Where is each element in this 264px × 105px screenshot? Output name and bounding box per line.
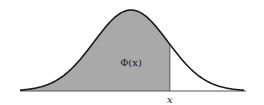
x-marker-label: x <box>167 94 173 105</box>
area-label: Φ(x) <box>120 57 142 68</box>
shaded-area <box>20 10 170 91</box>
normal-distribution-chart: Φ(x) x <box>0 0 264 105</box>
